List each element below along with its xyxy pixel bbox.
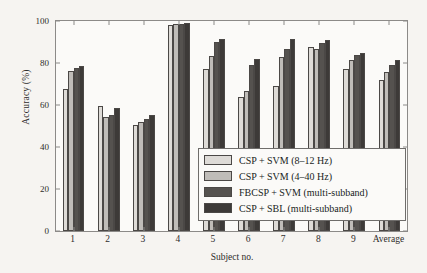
x-tick-mark <box>319 21 320 25</box>
bar-chart-figure: Accuracy (%) 020406080100 Subject no. CS… <box>0 0 427 273</box>
x-tick-mark <box>108 21 109 25</box>
x-tick-mark <box>249 227 250 231</box>
x-tick-mark <box>389 227 390 231</box>
x-tick-label: 6 <box>246 234 251 244</box>
y-tick-mark <box>56 189 60 190</box>
x-tick-label: 7 <box>281 234 286 244</box>
x-tick-label: 8 <box>316 234 321 244</box>
x-tick-mark <box>354 227 355 231</box>
x-tick-mark <box>143 21 144 25</box>
x-tick-mark <box>284 21 285 25</box>
y-tick-mark <box>56 21 60 22</box>
x-tick-mark <box>249 21 250 25</box>
legend-swatch-0 <box>204 155 232 165</box>
legend-label-0: CSP + SVM (8–12 Hz) <box>239 155 332 166</box>
x-tick-label: 2 <box>105 234 110 244</box>
x-tick-mark <box>178 227 179 231</box>
x-tick-mark <box>73 227 74 231</box>
x-tick-label: Average <box>373 234 404 244</box>
x-tick-label: 1 <box>70 234 75 244</box>
x-tick-mark <box>319 227 320 231</box>
bar-group <box>133 21 155 231</box>
legend-label-2: FBCSP + SVM (multi-subband) <box>239 187 368 198</box>
x-tick-mark <box>213 21 214 25</box>
bar <box>79 66 84 231</box>
legend-item: FBCSP + SVM (multi-subband) <box>204 184 400 200</box>
y-tick-label: 80 <box>40 58 56 68</box>
y-tick-label: 20 <box>40 184 56 194</box>
x-tick-mark <box>73 21 74 25</box>
bar-group <box>63 21 85 231</box>
x-tick-mark <box>143 227 144 231</box>
x-tick-label: 3 <box>140 234 145 244</box>
legend-swatch-3 <box>204 203 232 213</box>
x-tick-label: 9 <box>351 234 356 244</box>
y-tick-mark <box>403 21 407 22</box>
legend-swatch-2 <box>204 187 232 197</box>
y-tick-label: 60 <box>40 100 56 110</box>
x-tick-mark <box>178 21 179 25</box>
y-tick-label: 40 <box>40 142 56 152</box>
x-tick-mark <box>389 21 390 25</box>
legend-item: CSP + SBL (multi-subband) <box>204 200 400 216</box>
x-tick-mark <box>284 227 285 231</box>
x-tick-label: 5 <box>211 234 216 244</box>
bar <box>114 108 119 231</box>
y-tick-label: 0 <box>45 226 57 236</box>
bar-group <box>168 21 190 231</box>
y-tick-mark <box>56 63 60 64</box>
legend-item: CSP + SVM (4–40 Hz) <box>204 168 400 184</box>
legend-label-3: CSP + SBL (multi-subband) <box>239 203 352 214</box>
x-tick-mark <box>108 227 109 231</box>
x-tick-mark <box>213 227 214 231</box>
legend: CSP + SVM (8–12 Hz) CSP + SVM (4–40 Hz) … <box>198 148 406 221</box>
y-tick-mark <box>403 231 407 232</box>
y-tick-mark <box>403 105 407 106</box>
y-tick-label: 100 <box>36 16 57 26</box>
x-tick-label: 4 <box>175 234 180 244</box>
bar <box>149 115 154 231</box>
x-axis-label: Subject no. <box>55 252 409 262</box>
y-axis-label: Accuracy (%) <box>21 27 31 167</box>
bar-group <box>98 21 120 231</box>
y-tick-mark <box>403 63 407 64</box>
y-tick-mark <box>56 231 60 232</box>
y-tick-mark <box>56 105 60 106</box>
legend-item: CSP + SVM (8–12 Hz) <box>204 152 400 168</box>
y-tick-mark <box>56 147 60 148</box>
bar <box>184 23 189 231</box>
x-tick-mark <box>354 21 355 25</box>
legend-swatch-1 <box>204 171 232 181</box>
legend-label-1: CSP + SVM (4–40 Hz) <box>239 171 332 182</box>
